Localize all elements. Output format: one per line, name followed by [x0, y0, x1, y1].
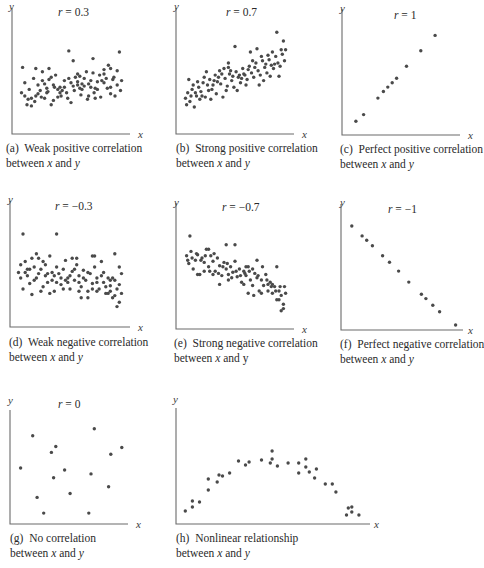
- data-point: [433, 34, 436, 37]
- data-point: [251, 284, 254, 287]
- data-point: [254, 61, 257, 64]
- y-axis-label: y: [173, 394, 178, 405]
- data-point: [39, 290, 42, 293]
- data-point: [89, 79, 92, 82]
- r-symbol: r: [58, 6, 62, 18]
- data-point: [228, 72, 231, 75]
- data-point: [94, 97, 97, 100]
- data-point: [345, 513, 348, 516]
- data-point: [189, 250, 192, 253]
- data-point: [95, 281, 98, 284]
- data-point: [63, 468, 66, 471]
- data-point: [203, 270, 206, 273]
- data-point: [350, 505, 353, 508]
- data-point: [215, 92, 218, 95]
- data-point: [62, 287, 65, 290]
- data-point: [19, 263, 22, 266]
- data-point: [204, 95, 207, 98]
- data-point: [80, 82, 83, 85]
- caption-prefix: (e): [174, 337, 187, 349]
- data-point: [251, 267, 254, 270]
- data-point: [96, 80, 99, 83]
- data-point: [59, 94, 62, 97]
- data-point: [75, 263, 78, 266]
- data-point: [216, 480, 219, 483]
- data-point: [19, 466, 22, 469]
- data-point: [118, 50, 121, 53]
- data-point: [218, 264, 221, 267]
- data-point: [64, 259, 67, 262]
- data-point: [350, 224, 353, 227]
- data-point: [73, 279, 76, 282]
- data-point: [248, 270, 251, 273]
- caption-var-x: x: [50, 351, 55, 363]
- data-point: [259, 73, 262, 76]
- caption-text: Nonlinear relationship: [195, 532, 298, 544]
- data-point: [34, 94, 37, 97]
- caption-line-1: (c) Perfect positive correlation: [340, 142, 483, 157]
- data-point: [186, 259, 189, 262]
- data-point: [102, 271, 105, 274]
- data-point: [225, 267, 228, 270]
- data-point: [68, 492, 71, 495]
- data-point: [30, 97, 33, 100]
- data-point: [260, 55, 263, 58]
- y-axis-label: y: [174, 197, 179, 208]
- data-point: [242, 283, 245, 286]
- data-point: [282, 39, 285, 42]
- data-point: [52, 476, 55, 479]
- data-point: [197, 86, 200, 89]
- data-point: [214, 270, 217, 273]
- data-point: [249, 50, 252, 53]
- data-point: [30, 104, 33, 107]
- data-point: [120, 79, 123, 82]
- x-axis-label: x: [468, 130, 473, 141]
- data-point: [115, 287, 118, 290]
- data-point: [99, 95, 102, 98]
- data-point: [91, 254, 94, 257]
- data-point: [116, 69, 119, 72]
- data-point: [185, 254, 188, 257]
- data-point: [211, 273, 214, 276]
- caption: (e) Strong negative correlation between …: [174, 336, 318, 366]
- data-point: [91, 71, 94, 74]
- data-point: [77, 274, 80, 277]
- caption-between: between: [176, 547, 214, 559]
- data-point: [113, 252, 116, 255]
- data-point: [244, 83, 247, 86]
- data-point: [120, 446, 123, 449]
- data-point: [201, 81, 204, 84]
- data-point: [277, 75, 280, 78]
- data-point: [207, 488, 210, 491]
- data-point: [21, 232, 24, 235]
- r-symbol: r: [388, 203, 392, 215]
- data-point: [35, 252, 38, 255]
- data-point: [250, 71, 253, 74]
- data-point: [113, 94, 116, 97]
- data-point: [221, 474, 224, 477]
- data-point: [33, 100, 36, 103]
- caption-line-2: between x and y: [174, 351, 318, 366]
- caption-prefix: (g): [10, 532, 23, 544]
- data-point: [111, 276, 114, 279]
- caption-text: Perfect positive correlation: [359, 143, 484, 155]
- caption-line-2: between x and y: [9, 350, 148, 365]
- r-symbol: r: [222, 201, 226, 213]
- data-point: [195, 252, 198, 255]
- caption-line-2: between x and y: [6, 156, 142, 171]
- data-point: [65, 91, 68, 94]
- data-point: [58, 86, 61, 89]
- data-point: [32, 77, 35, 80]
- data-point: [225, 89, 228, 92]
- data-point: [55, 281, 58, 284]
- data-point: [313, 476, 316, 479]
- caption-text: Perfect negative correlation: [357, 338, 484, 350]
- caption-line-1: (d) Weak negative correlation: [9, 335, 148, 350]
- data-point: [192, 83, 195, 86]
- data-point: [115, 305, 118, 308]
- data-point: [271, 283, 274, 286]
- data-point: [247, 68, 250, 71]
- data-point: [217, 272, 220, 275]
- data-point: [87, 94, 90, 97]
- caption-between: between: [10, 547, 48, 559]
